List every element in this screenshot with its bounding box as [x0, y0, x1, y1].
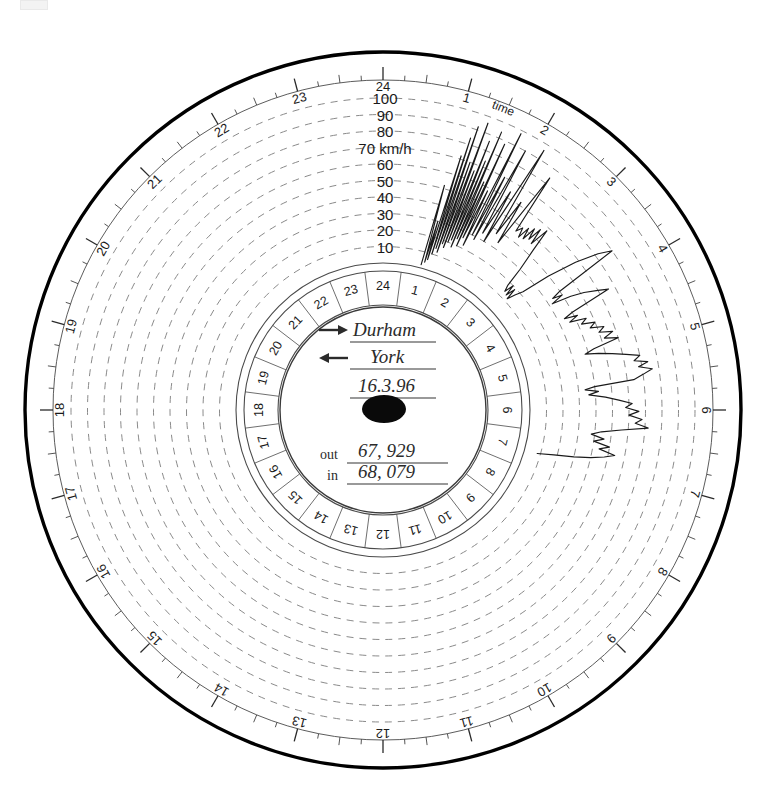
inner-hour-label: 12 [376, 527, 390, 541]
center-field: Durham York 16.3.96 out 67, 929 in 68, 0… [280, 307, 486, 513]
speed-scale-label: 30 [377, 206, 394, 223]
speed-scale-label: 50 [377, 173, 394, 190]
destination-label: Durham [352, 319, 416, 340]
odometer-in-value: 68, 079 [358, 461, 416, 482]
center-spindle-icon [362, 395, 406, 423]
inner-hour-label: 18 [252, 403, 266, 417]
time-hour-label: 12 [376, 726, 390, 741]
date-label: 16.3.96 [358, 375, 416, 396]
speed-scale-label: 40 [377, 189, 394, 206]
speed-scale-label: 70 km/h [358, 140, 411, 157]
speed-scale-label: 60 [377, 156, 394, 173]
speed-scale-label: 80 [377, 123, 394, 140]
inner-hour-label: 6 [500, 407, 514, 414]
speed-scale-label: 10 [377, 239, 394, 256]
origin-label: York [370, 346, 405, 367]
odometer-in-label: in [327, 468, 338, 483]
speed-scale-label: 90 [377, 107, 394, 124]
odometer-out-label: out [320, 447, 338, 462]
tachograph-chart: 123456789101112131415161718192021222324t… [0, 0, 763, 805]
inner-hour-label: 24 [376, 279, 390, 293]
tachograph-page: 123456789101112131415161718192021222324t… [0, 0, 763, 805]
odometer-out-value: 67, 929 [358, 440, 416, 461]
speed-scale-label: 20 [377, 222, 394, 239]
time-hour-label: 18 [52, 403, 67, 417]
time-hour-label: 6 [699, 406, 714, 413]
speed-scale-label: 100 [372, 90, 397, 107]
